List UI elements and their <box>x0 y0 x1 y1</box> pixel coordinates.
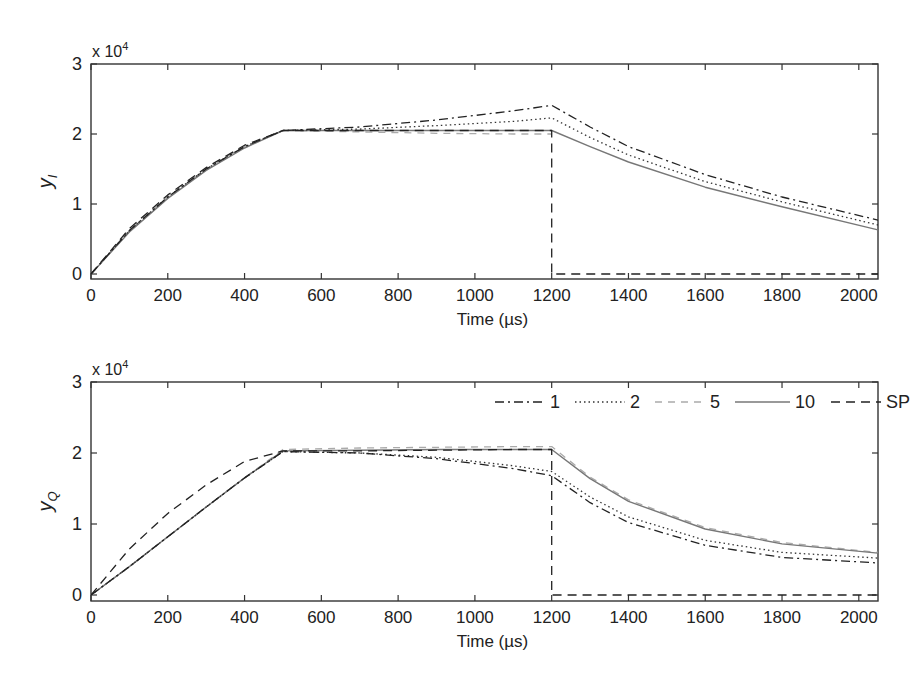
legend-label-5: 5 <box>710 392 720 412</box>
figure: 0200400600800100012001400160018002000012… <box>0 0 914 695</box>
x-tick-label: 800 <box>384 286 412 305</box>
axes-box <box>91 64 878 279</box>
series-line-10 <box>91 131 878 275</box>
x-tick-label: 1400 <box>610 286 648 305</box>
series-line-sp <box>91 450 878 596</box>
y-tick-label: 2 <box>72 443 82 463</box>
axes-box <box>91 382 878 601</box>
series-line-2 <box>91 452 878 595</box>
x-tick-label: 200 <box>154 286 182 305</box>
y-tick-label: 2 <box>72 124 82 144</box>
x-tick-label: 400 <box>230 608 258 627</box>
chart-canvas: 0200400600800100012001400160018002000012… <box>0 0 914 695</box>
x-tick-label: 600 <box>307 608 335 627</box>
x-tick-label: 1400 <box>610 608 648 627</box>
y-axis-label-subscript: Q <box>45 491 60 501</box>
y-multiplier-exponent: 4 <box>122 358 128 370</box>
y-tick-label: 3 <box>72 372 82 392</box>
x-axis-label: Time (µs) <box>457 632 529 651</box>
plot-top-yi: 0200400600800100012001400160018002000012… <box>34 40 878 329</box>
x-tick-label: 1600 <box>686 286 724 305</box>
x-tick-label: 1800 <box>763 286 801 305</box>
series-line-10 <box>91 450 878 596</box>
x-tick-label: 1600 <box>686 608 724 627</box>
x-tick-label: 800 <box>384 608 412 627</box>
y-axis-label: yQ <box>34 491 60 513</box>
series-line-5 <box>91 447 878 595</box>
y-tick-label: 1 <box>72 514 82 534</box>
legend-label-2: 2 <box>630 392 640 412</box>
y-tick-label: 1 <box>72 194 82 214</box>
x-tick-label: 1200 <box>533 608 571 627</box>
y-tick-label: 0 <box>72 264 82 284</box>
legend: 12510SP <box>495 392 910 412</box>
series-line-sp <box>91 131 878 275</box>
y-multiplier-exponent: 4 <box>122 40 128 52</box>
y-multiplier: x 104 <box>92 358 128 378</box>
x-tick-label: 1000 <box>456 286 494 305</box>
y-tick-label: 3 <box>72 54 82 74</box>
y-multiplier: x 104 <box>92 40 128 60</box>
y-tick-label: 0 <box>72 585 82 605</box>
x-tick-label: 400 <box>230 286 258 305</box>
x-tick-label: 1200 <box>533 286 571 305</box>
legend-label-1: 1 <box>550 392 560 412</box>
x-tick-label: 0 <box>86 608 95 627</box>
x-tick-label: 1000 <box>456 608 494 627</box>
x-tick-label: 2000 <box>840 608 878 627</box>
legend-label-sp: SP <box>886 392 910 412</box>
x-axis-label: Time (µs) <box>457 310 529 329</box>
plot-bottom-yq: 0200400600800100012001400160018002000012… <box>34 358 910 651</box>
series-line-2 <box>91 118 878 274</box>
x-tick-label: 0 <box>86 286 95 305</box>
x-tick-label: 1800 <box>763 608 801 627</box>
series-line-1 <box>91 452 878 595</box>
legend-label-10: 10 <box>795 392 815 412</box>
series-line-5 <box>91 131 552 275</box>
x-tick-label: 2000 <box>840 286 878 305</box>
y-axis-label-subscript: I <box>45 174 60 178</box>
x-tick-label: 200 <box>154 608 182 627</box>
x-tick-label: 600 <box>307 286 335 305</box>
y-axis-label: yI <box>34 174 60 190</box>
